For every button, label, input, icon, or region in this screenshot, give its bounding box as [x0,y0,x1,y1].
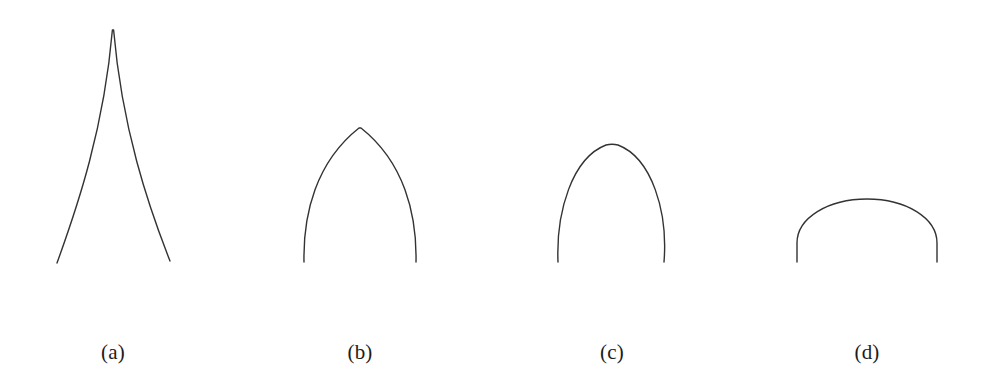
panel-label-b: (b) [320,342,400,363]
arch-profiles-figure: (a) (b) (c) (d) [0,0,988,392]
figure-background [0,0,988,392]
panel-label-c: (c) [572,342,652,363]
panel-label-a: (a) [73,342,153,363]
panel-label-d: (d) [827,342,907,363]
arch-drawing-canvas [0,0,988,392]
